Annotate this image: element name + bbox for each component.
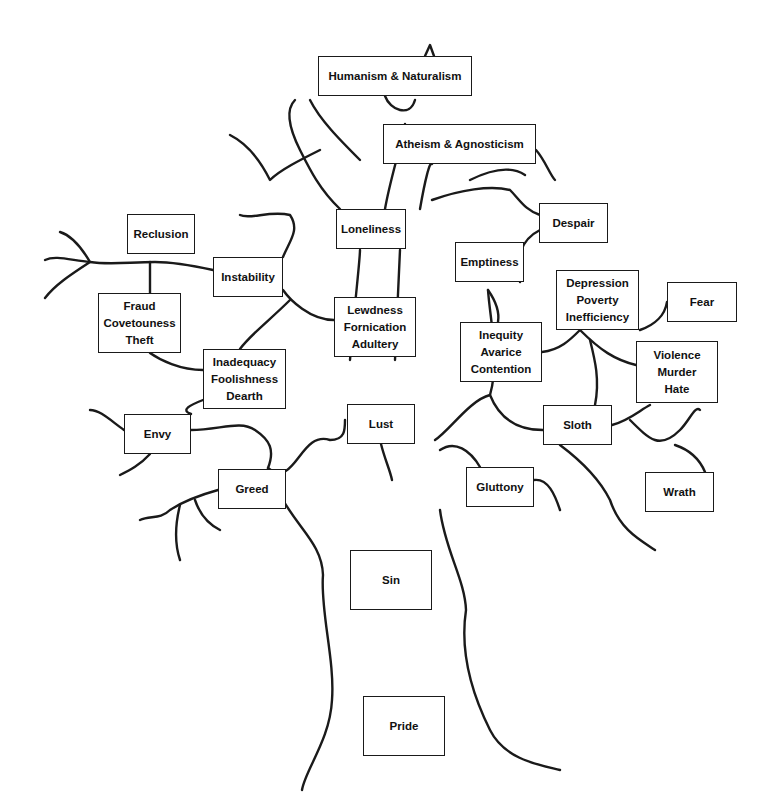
label-line: Sin — [382, 572, 400, 589]
branch-left-greed-2 — [176, 505, 180, 560]
label-line: Inadequacy — [213, 354, 276, 371]
label-line: Loneliness — [341, 221, 401, 238]
branch-right-wrath-1 — [560, 445, 655, 550]
label-line: Covetouness — [103, 315, 175, 332]
label-line: Avarice — [480, 344, 521, 361]
label-line: Reclusion — [134, 226, 189, 243]
branch-left-inadequacy-2 — [150, 353, 203, 370]
label-box-sin: Sin — [350, 550, 432, 610]
branch-upper-right-3 — [536, 150, 555, 180]
label-box-lust: Lust — [347, 404, 415, 444]
branch-left-reclusion-fork — [45, 232, 90, 298]
label-line: Fear — [690, 294, 714, 311]
label-box-greed: Greed — [218, 469, 286, 509]
label-box-emptiness: Emptiness — [455, 242, 524, 282]
label-line: Foolishness — [211, 371, 278, 388]
trunk-left-edge — [283, 500, 332, 790]
label-box-wrath: Wrath — [645, 472, 714, 512]
label-line: Instability — [221, 269, 275, 286]
label-box-lewdness-fornication-adultery: LewdnessFornicationAdultery — [334, 297, 416, 357]
branch-upper-right-2 — [470, 170, 525, 180]
label-box-sloth: Sloth — [543, 405, 612, 445]
label-line: Theft — [125, 332, 153, 349]
label-line: Dearth — [226, 388, 262, 405]
label-box-humanism-naturalism: Humanism & Naturalism — [318, 56, 472, 96]
branch-upper-left-1 — [290, 100, 340, 209]
label-line: Pride — [390, 718, 419, 735]
label-line: Poverty — [576, 292, 618, 309]
label-line: Sloth — [563, 417, 592, 434]
label-box-pride: Pride — [363, 696, 445, 756]
branch-left-envy-center — [191, 426, 271, 468]
crown-tip — [425, 45, 434, 56]
upper-stem-right — [420, 163, 432, 209]
label-line: Contention — [471, 361, 532, 378]
branch-right-sloth-1 — [490, 395, 543, 430]
branch-left-envy-lower — [120, 454, 150, 475]
branch-right-mid-4 — [590, 340, 597, 405]
label-box-violence-murder-hate: ViolenceMurderHate — [636, 341, 718, 403]
label-line: Humanism & Naturalism — [329, 68, 462, 85]
branch-left-lewdness — [283, 290, 334, 320]
label-line: Envy — [144, 426, 172, 443]
label-box-reclusion: Reclusion — [127, 214, 195, 254]
label-box-gluttony: Gluttony — [466, 467, 534, 507]
label-line: Despair — [552, 215, 594, 232]
label-box-atheism-agnosticism: Atheism & Agnosticism — [383, 124, 536, 164]
label-line: Lewdness — [347, 302, 403, 319]
trunk-right-edge — [440, 510, 560, 770]
label-box-instability: Instability — [213, 257, 283, 297]
label-line: Wrath — [663, 484, 695, 501]
label-line: Fornication — [344, 319, 407, 336]
label-line: Depression — [566, 275, 629, 292]
label-line: Adultery — [352, 336, 399, 353]
label-line: Inefficiency — [566, 309, 629, 326]
branch-left-reclusion — [45, 258, 213, 270]
branch-right-wrath-3 — [675, 445, 705, 472]
label-box-depression-poverty-inefficiency: DepressionPovertyInefficiency — [556, 270, 639, 330]
label-line: Inequity — [479, 327, 523, 344]
label-box-inequity-avarice-contention: InequityAvariceContention — [460, 322, 542, 382]
branch-left-instability-up — [240, 214, 294, 257]
label-box-despair: Despair — [539, 203, 608, 243]
label-line: Greed — [235, 481, 268, 498]
branch-right-mid-1 — [542, 330, 580, 352]
branch-right-mid-2 — [580, 330, 636, 365]
label-box-envy: Envy — [124, 414, 191, 454]
trunk-center-left — [268, 420, 345, 473]
label-line: Emptiness — [460, 254, 518, 271]
branch-right-wrath-2 — [630, 409, 700, 441]
label-box-loneliness: Loneliness — [336, 209, 406, 249]
label-line: Violence — [653, 347, 700, 364]
branch-left-inadequacy — [240, 300, 290, 349]
branch-upper-right-1 — [432, 188, 540, 215]
label-line: Fraud — [124, 298, 156, 315]
label-box-inadequacy-foolishness-dearth: InadequacyFoolishnessDearth — [203, 349, 286, 409]
label-line: Lust — [369, 416, 393, 433]
branch-center-lust-down — [381, 444, 392, 480]
label-line: Murder — [658, 364, 697, 381]
label-box-fear: Fear — [667, 282, 737, 322]
branch-right-gluttony-2 — [534, 480, 560, 510]
crown-loop — [385, 96, 415, 110]
branch-left-greed-3 — [195, 500, 220, 530]
label-line: Gluttony — [476, 479, 523, 496]
label-box-fraud-covetouness-theft: FraudCovetounessTheft — [98, 293, 181, 353]
branch-right-mid-3 — [640, 302, 667, 330]
label-line: Atheism & Agnosticism — [395, 136, 524, 153]
branch-right-gluttony — [440, 446, 480, 467]
label-line: Hate — [665, 381, 690, 398]
branch-upper-left-3 — [230, 135, 320, 180]
